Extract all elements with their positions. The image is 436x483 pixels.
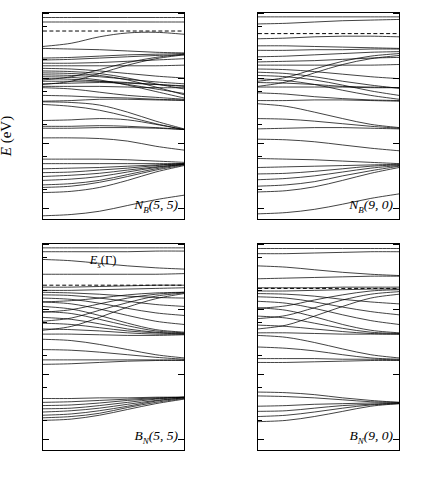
y-axis-tick-mark [393,143,399,144]
y-axis-minor-tick [43,124,47,125]
y-axis-tick-mark [393,244,399,245]
y-axis-tick-mark [43,244,49,245]
y-axis-tick-mark [258,208,264,209]
y-axis-minor-tick [43,91,47,92]
y-axis-minor-tick [258,322,262,323]
y-axis-tick-mark [43,78,49,79]
band-line [43,48,184,53]
band-line [43,86,184,87]
panel-title: BN(9, 0) [349,428,393,446]
band-line [258,404,399,422]
y-axis-tick-mark [258,439,264,440]
band-curves [43,244,184,450]
y-axis-tick-mark [178,143,184,144]
band-line [43,397,184,409]
band-line [258,36,399,39]
band-line [258,392,399,402]
y-axis-tick-mark [393,374,399,375]
y-axis-tick-mark [393,13,399,14]
band-line [258,292,399,319]
y-axis-tick-mark [258,143,264,144]
panel-title: NB(5, 5) [134,197,178,215]
band-line [258,252,399,254]
y-axis-minor-tick [258,387,262,388]
band-line [43,339,184,358]
band-line [258,79,399,100]
y-axis-tick-mark [43,208,49,209]
y-axis-label-symbol: E [0,147,14,156]
y-axis-minor-tick [258,124,262,125]
band-line [258,297,399,315]
y-axis-label-unit: (eV) [0,116,14,143]
y-axis-tick-mark [258,13,264,14]
y-axis-tick-mark [258,244,264,245]
band-line [258,168,399,192]
band-line [43,317,184,333]
y-axis-tick-mark [178,309,184,310]
y-axis-tick-mark [178,78,184,79]
y-axis-minor-tick [258,26,262,27]
band-curves [43,13,184,219]
band-line [258,294,399,329]
y-axis-minor-tick [258,189,262,190]
band-line [258,276,399,279]
band-line [258,266,399,276]
y-axis-tick-mark [178,439,184,440]
y-axis-tick-mark [393,78,399,79]
band-line [43,138,184,150]
y-axis-tick-mark [178,208,184,209]
band-line [258,287,399,288]
band-line [43,288,184,291]
y-axis-tick-mark [258,78,264,79]
band-line [43,73,184,95]
band-line [258,166,399,180]
band-line [43,274,184,275]
y-axis-minor-tick [43,420,47,421]
band-line [43,166,184,193]
y-axis-tick-mark [393,309,399,310]
y-axis-tick-mark [43,439,49,440]
y-axis-minor-tick [43,322,47,323]
y-axis-label: E (eV) [0,76,15,196]
y-axis-tick-mark [258,374,264,375]
y-axis-minor-tick [258,156,262,157]
band-line [43,32,184,46]
band-line [43,54,184,80]
panel-title: BN(5, 5) [134,428,178,446]
y-axis-minor-tick [43,290,47,291]
band-line [258,158,399,163]
band-curves [258,244,399,450]
band-line [258,347,399,359]
y-axis-minor-tick [43,189,47,190]
band-line [258,104,399,128]
panel-BN90: 0102030ΓkXDπ(B)s(B,N)BN(9, 0) [257,243,400,451]
y-axis-minor-tick [258,290,262,291]
band-line [258,290,399,309]
y-axis-minor-tick [43,387,47,388]
panel-BN55: 0102030ΓkXEs(X)Dπ(B)π(B,N)pσ(B,N)sp(B,N)… [42,243,185,451]
y-axis-minor-tick [43,156,47,157]
band-line [258,128,399,129]
band-line [43,360,184,364]
y-axis-tick-mark [393,439,399,440]
band-line [258,69,399,79]
band-line [43,350,184,360]
y-axis-tick-mark [43,309,49,310]
y-axis-minor-tick [258,355,262,356]
y-axis-tick-mark [43,374,49,375]
band-line [258,52,399,57]
band-line [258,119,399,129]
band-curves [258,13,399,219]
y-axis-minor-tick [258,59,262,60]
y-axis-minor-tick [258,91,262,92]
panel-title: NB(9, 0) [349,197,393,215]
band-line [258,335,399,358]
band-line [258,139,399,151]
y-axis-minor-tick [258,257,262,258]
band-line [258,166,399,186]
band-line [258,49,399,50]
y-axis-minor-tick [43,257,47,258]
band-line [258,19,399,24]
y-axis-tick-mark [178,374,184,375]
band-line [258,360,399,362]
